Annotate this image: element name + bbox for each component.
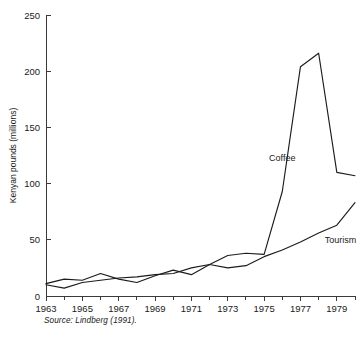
- data-series: [46, 53, 355, 288]
- x-tick-label: 1979: [326, 303, 347, 314]
- y-tick-label: 200: [24, 66, 40, 77]
- y-tick-label: 100: [24, 178, 40, 189]
- y-axis: 050100150200250: [24, 10, 51, 302]
- series-annotations: CoffeeTourism: [269, 153, 356, 245]
- series-line-coffee: [46, 53, 355, 283]
- y-tick-label: 50: [29, 234, 40, 245]
- series-label-coffee: Coffee: [269, 153, 295, 163]
- y-tick-label: 150: [24, 122, 40, 133]
- x-axis: 196319651967196919711973197519771979: [35, 296, 355, 314]
- line-chart: 050100150200250 196319651967196919711973…: [0, 0, 363, 339]
- series-label-tourism: Tourism: [325, 235, 357, 245]
- x-tick-label: 1963: [35, 303, 56, 314]
- x-tick-label: 1967: [108, 303, 129, 314]
- chart-figure: 050100150200250 196319651967196919711973…: [0, 0, 363, 339]
- x-tick-label: 1973: [217, 303, 238, 314]
- x-tick-label: 1977: [290, 303, 311, 314]
- x-tick-label: 1971: [181, 303, 202, 314]
- x-tick-label: 1969: [144, 303, 165, 314]
- x-tick-label: 1975: [254, 303, 275, 314]
- y-axis-title: Kenyan pounds (millions): [8, 108, 18, 204]
- y-tick-label: 0: [35, 291, 40, 302]
- source-note: Source: Lindberg (1991).: [44, 316, 137, 325]
- y-axis-title-text: Kenyan pounds (millions): [8, 108, 18, 204]
- series-line-tourism: [46, 203, 355, 288]
- y-tick-label: 250: [24, 10, 40, 21]
- x-tick-label: 1965: [72, 303, 93, 314]
